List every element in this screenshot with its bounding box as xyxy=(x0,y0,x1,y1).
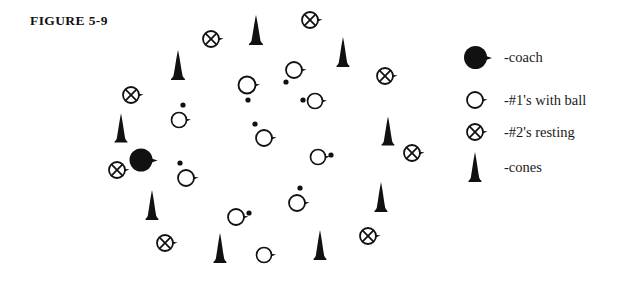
legend-item-player2: -#2's resting xyxy=(452,115,575,149)
cone-marker xyxy=(374,182,388,212)
player1-with-ball-marker xyxy=(233,71,262,100)
cone-marker xyxy=(249,15,264,45)
player2-resting-marker xyxy=(296,6,324,34)
cone-marker xyxy=(381,117,395,146)
player1-with-ball-marker xyxy=(222,203,250,231)
ball-marker xyxy=(179,101,186,108)
cone-icon xyxy=(452,150,498,184)
crossed-circle-icon xyxy=(452,115,498,149)
player2-resting-marker xyxy=(117,81,145,109)
figure-page: FIGURE 5-9 -coach-#1's with ball-#2's re… xyxy=(0,0,632,292)
legend-label-coach: -coach xyxy=(504,49,543,66)
legend-label-player1: -#1's with ball xyxy=(504,92,586,109)
open-circle-player-icon xyxy=(452,83,498,117)
player2-resting-marker xyxy=(398,139,426,167)
player2-resting-marker xyxy=(371,62,399,90)
legend-item-player1: -#1's with ball xyxy=(452,83,586,117)
ball-marker xyxy=(282,78,289,85)
filled-circle-coach-icon xyxy=(452,40,498,74)
page-title: FIGURE 5-9 xyxy=(30,13,108,29)
legend-item-coach: -coach xyxy=(452,40,543,74)
cone-marker xyxy=(313,230,327,260)
player2-resting-marker xyxy=(354,222,382,250)
player1-with-ball-marker xyxy=(283,189,311,217)
player1-with-ball-marker xyxy=(250,124,278,152)
player1-with-ball-marker xyxy=(251,242,278,269)
player1-with-ball-marker xyxy=(172,164,200,192)
ball-marker xyxy=(296,184,303,191)
cone-marker xyxy=(171,50,186,80)
ball-marker xyxy=(176,159,183,166)
legend-label-player2: -#2's resting xyxy=(504,124,575,141)
ball-marker xyxy=(245,209,252,216)
ball-marker xyxy=(244,96,251,103)
cone-marker xyxy=(145,190,159,220)
ball-marker xyxy=(299,96,306,103)
legend-item-cone: -cones xyxy=(452,150,542,184)
cone-marker xyxy=(336,37,350,67)
cone-marker xyxy=(213,233,227,263)
player1-with-ball-marker xyxy=(166,107,193,134)
ball-marker xyxy=(327,151,334,158)
player2-resting-marker xyxy=(103,156,131,184)
player2-resting-marker xyxy=(197,25,225,53)
ball-marker xyxy=(251,120,258,127)
player2-resting-marker xyxy=(151,229,179,257)
cone-marker xyxy=(114,114,128,143)
legend-label-cone: -cones xyxy=(504,159,542,176)
